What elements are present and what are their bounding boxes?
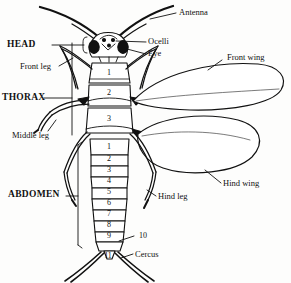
- label-front-wing: Front wing: [227, 53, 265, 62]
- hind-wing-shape: [138, 116, 260, 173]
- front-leg-shape: [60, 46, 92, 89]
- hind-leg-left-shape: [64, 132, 90, 206]
- abdomen-segment-2-number: 2: [100, 154, 118, 163]
- eye-left-shape: [89, 41, 99, 54]
- insect-line-drawing: [0, 0, 291, 283]
- front-wing-shape: [133, 64, 283, 111]
- label-antenna: Antenna: [179, 8, 208, 17]
- mouthparts-shape: [99, 57, 118, 62]
- figure-canvas: HEAD Front leg THORAX Middle leg ABDOMEN…: [0, 0, 291, 283]
- label-abdomen: ABDOMEN: [8, 190, 60, 200]
- front-leg-leader: [59, 58, 73, 66]
- thorax-segment-1-number: 1: [100, 68, 118, 77]
- label-ocelli: Ocelli: [148, 37, 169, 46]
- abdomen-segment-8-number: 8: [100, 220, 118, 229]
- label-thorax: THORAX: [2, 93, 46, 103]
- abdomen-segment-3-number: 3: [100, 165, 118, 174]
- abdomen-segment-6-number: 6: [100, 198, 118, 207]
- thorax-segment-2-number: 2: [100, 88, 118, 97]
- abdomen-segment-4-number: 4: [100, 176, 118, 185]
- segment-10-number: 10: [136, 231, 150, 240]
- middle-leg-shape: [34, 100, 89, 133]
- antenna-left-shape: [40, 7, 100, 38]
- antenna-right-shape: [117, 6, 173, 38]
- cercus-left-shape: [65, 252, 104, 282]
- middle-leg-leader: [48, 120, 56, 131]
- label-eye: Eye: [148, 49, 161, 58]
- abdomen-segment-7-number: 7: [100, 209, 118, 218]
- abdomen-segment-9-number: 9: [100, 231, 118, 240]
- eye-leader: [127, 49, 146, 54]
- label-hind-leg: Hind leg: [158, 192, 188, 201]
- label-hind-wing: Hind wing: [223, 179, 259, 188]
- label-middle-leg: Middle leg: [12, 131, 49, 140]
- eye-right-shape: [118, 41, 128, 54]
- segment-11-number: 11: [101, 251, 115, 260]
- thorax-segment-3-number: 3: [100, 114, 118, 123]
- label-front-leg: Front leg: [20, 62, 51, 71]
- label-cercus: Cercus: [135, 250, 159, 259]
- label-head: HEAD: [7, 40, 36, 50]
- abdomen-segment-5-number: 5: [100, 187, 118, 196]
- abdomen-segment-1-number: 1: [100, 142, 118, 151]
